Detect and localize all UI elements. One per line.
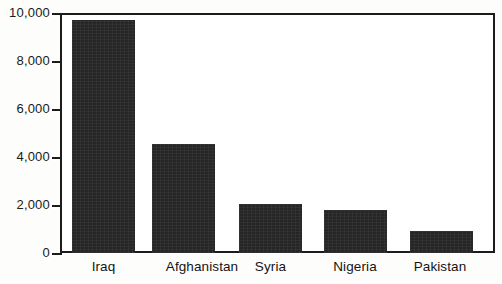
bar-nigeria [324, 210, 387, 253]
x-axis-label-nigeria: Nigeria [316, 259, 394, 274]
y-axis-tick-8000 [52, 61, 62, 63]
y-axis-tick-6000 [52, 109, 62, 111]
x-axis-label-pakistan: Pakistan [400, 259, 480, 274]
x-axis-label-iraq: Iraq [72, 259, 135, 274]
bar-pakistan [410, 231, 473, 253]
bar-afghanistan [152, 144, 215, 253]
x-axis-label-syria: Syria [239, 259, 302, 274]
y-axis-tick-0 [52, 253, 62, 255]
y-axis-label-4000: 4,000 [16, 149, 50, 164]
y-axis-tick-4000 [52, 157, 62, 159]
y-axis-label-8000: 8,000 [16, 53, 50, 68]
y-axis-label-0: 0 [43, 245, 50, 260]
bar-syria [239, 204, 302, 253]
y-axis-label-2000: 2,000 [16, 197, 50, 212]
y-axis-label-6000: 6,000 [16, 101, 50, 116]
bars-layer [62, 13, 493, 253]
bar-chart: 10,000 8,000 6,000 4,000 2,000 0 Iraq Af… [0, 0, 502, 284]
y-axis-tick-10000 [52, 13, 62, 15]
bar-iraq [72, 20, 135, 253]
y-axis-label-10000: 10,000 [9, 5, 50, 20]
y-axis-tick-2000 [52, 205, 62, 207]
